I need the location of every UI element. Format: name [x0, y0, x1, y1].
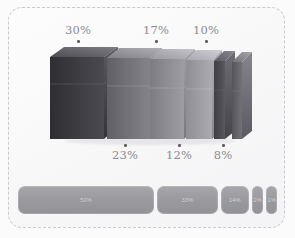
- chart-canvas: 30% 17% 10% 23% 12% 8% 50% 33% 14% 2% 1%: [0, 0, 295, 238]
- value-label-top-1: 30%: [62, 23, 94, 37]
- stacked-progress-strip: 50% 33% 14% 2% 1%: [18, 186, 277, 214]
- strip-segment-2[interactable]: 33%: [157, 186, 218, 214]
- marker-dot-bottom-1: [124, 144, 127, 147]
- strip-segment-1[interactable]: 50%: [18, 186, 154, 214]
- value-label-bottom-3: 8%: [208, 148, 238, 162]
- strip-segment-1-value: 50%: [80, 197, 92, 203]
- marker-dot-top-2: [155, 40, 158, 43]
- marker-dot-bottom-2: [178, 144, 181, 147]
- value-label-top-3: 10%: [190, 23, 222, 37]
- marker-dot-bottom-3: [222, 144, 225, 147]
- value-label-bottom-2: 12%: [163, 148, 195, 162]
- strip-segment-3[interactable]: 14%: [221, 186, 249, 214]
- strip-segment-4-value: 2%: [253, 197, 261, 203]
- strip-segment-5[interactable]: 1%: [266, 186, 277, 214]
- strip-segment-3-value: 14%: [229, 197, 241, 203]
- strip-segment-4[interactable]: 2%: [252, 186, 264, 214]
- value-label-bottom-1: 23%: [109, 148, 141, 162]
- marker-dot-top-1: [77, 40, 80, 43]
- strip-segment-5-value: 1%: [268, 197, 276, 203]
- marker-dot-top-3: [205, 40, 208, 43]
- strip-segment-2-value: 33%: [182, 197, 194, 203]
- value-label-top-2: 17%: [140, 23, 172, 37]
